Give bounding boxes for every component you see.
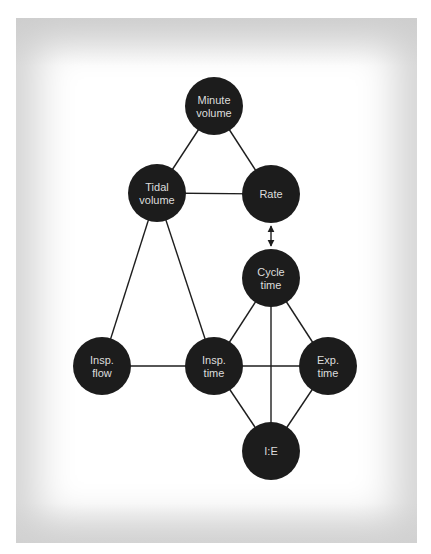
node-label: time xyxy=(318,367,339,379)
nodes-layer: MinutevolumeTidalvolumeRateCycletimeInsp… xyxy=(73,77,357,480)
node-minute-volume: Minutevolume xyxy=(185,77,243,135)
node-insp-flow: Insp.flow xyxy=(73,337,131,395)
node-cycle-time: Cycletime xyxy=(242,249,300,307)
node-ie: I:E xyxy=(242,422,300,480)
node-label: flow xyxy=(92,367,112,379)
node-tidal-volume: Tidalvolume xyxy=(128,164,186,222)
node-rate: Rate xyxy=(242,165,300,223)
node-label: Insp. xyxy=(90,354,114,366)
node-label: Cycle xyxy=(257,266,285,278)
node-label: volume xyxy=(139,194,174,206)
node-label: Insp. xyxy=(202,354,226,366)
node-insp-time: Insp.time xyxy=(185,337,243,395)
node-label: Rate xyxy=(259,188,282,200)
node-label: time xyxy=(261,279,282,291)
node-label: Minute xyxy=(197,94,230,106)
node-label: I:E xyxy=(264,445,277,457)
ventilation-parameter-diagram: MinutevolumeTidalvolumeRateCycletimeInsp… xyxy=(0,0,431,554)
node-exp-time: Exp.time xyxy=(299,337,357,395)
node-label: Tidal xyxy=(145,181,168,193)
node-label: Exp. xyxy=(317,354,339,366)
node-label: volume xyxy=(196,107,231,119)
node-label: time xyxy=(204,367,225,379)
